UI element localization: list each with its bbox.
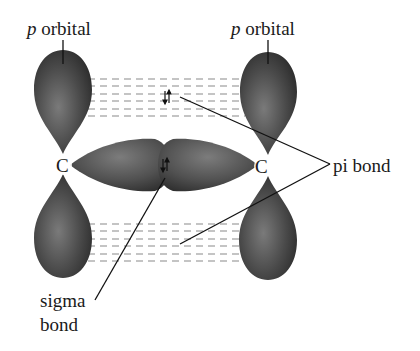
p-orbital-label-right: p orbital bbox=[231, 19, 295, 38]
sigma-bond-label-line2: bond bbox=[40, 315, 78, 334]
pi-electron-pair-icon bbox=[163, 90, 171, 104]
p-orbital-label-left: p orbital bbox=[27, 19, 91, 38]
sigma-bond-left-lobe bbox=[70, 139, 170, 192]
carbon-label-right: C bbox=[255, 157, 268, 176]
p-orbital-label-right-text: orbital bbox=[241, 18, 295, 39]
sigma-bond-label-line1: sigma bbox=[40, 291, 85, 310]
right-p-orbital-bottom-lobe bbox=[239, 176, 297, 280]
p-orbital-label-left-text: orbital bbox=[37, 18, 91, 39]
right-p-orbital-top-lobe bbox=[240, 52, 297, 155]
p-orbital-label-left-italic: p bbox=[27, 18, 37, 39]
left-p-orbital-top-lobe bbox=[34, 50, 92, 154]
pi-overlap-dashes-bottom bbox=[88, 224, 245, 261]
pi-bond-label: pi bond bbox=[333, 156, 391, 175]
p-orbital-label-right-italic: p bbox=[231, 18, 241, 39]
sigma-bond-right-lobe bbox=[158, 139, 258, 192]
pi-overlap-dashes-top bbox=[88, 79, 245, 116]
carbon-label-left: C bbox=[56, 156, 69, 175]
left-p-orbital-bottom-lobe bbox=[34, 174, 92, 278]
